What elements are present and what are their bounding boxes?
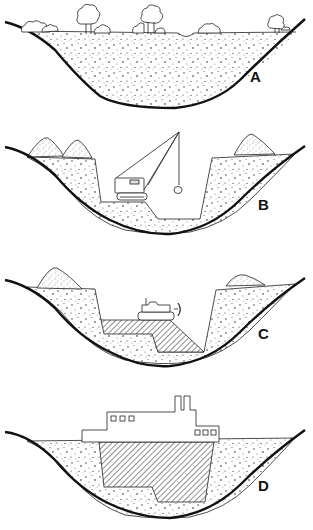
panel-label-d: D bbox=[258, 477, 269, 494]
building bbox=[82, 396, 219, 442]
completed-structure-diagram: D bbox=[0, 390, 313, 520]
excavation-diagram: B bbox=[0, 130, 313, 250]
dragline-crane bbox=[115, 132, 182, 200]
panel-label-b: B bbox=[258, 196, 269, 213]
bulldozer bbox=[138, 298, 181, 320]
trees bbox=[21, 4, 290, 34]
panel-d: D bbox=[0, 390, 313, 520]
panel-label-c: C bbox=[258, 325, 269, 342]
panel-label-a: A bbox=[250, 68, 261, 85]
valley-natural-diagram: A bbox=[0, 0, 313, 120]
fill-placement-diagram: C bbox=[0, 260, 313, 380]
panel-c: C bbox=[0, 260, 313, 380]
panel-a: A bbox=[0, 0, 313, 120]
panel-b: B bbox=[0, 130, 313, 250]
